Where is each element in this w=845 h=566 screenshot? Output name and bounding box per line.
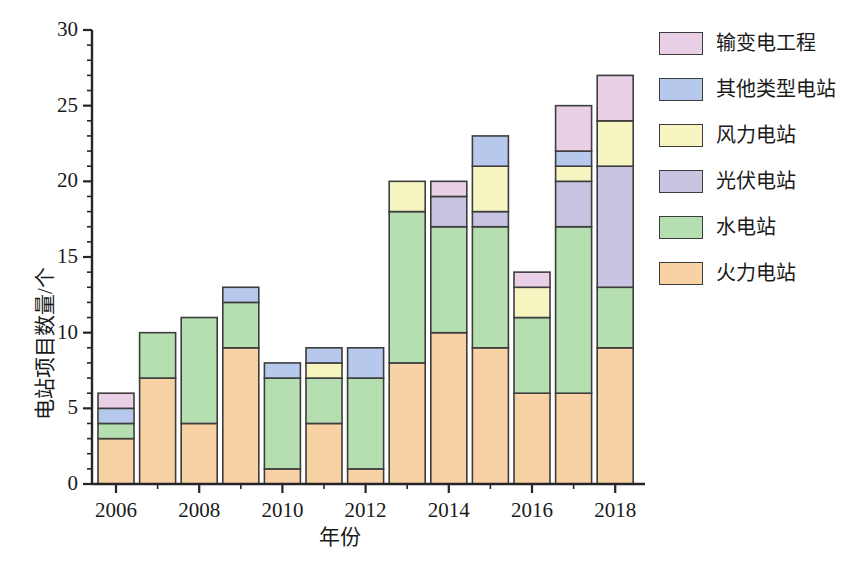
legend-swatch <box>659 32 703 55</box>
y-tick-label: 20 <box>20 168 78 193</box>
bar-segment <box>472 136 508 166</box>
bar-segment <box>181 423 217 484</box>
bar-segment <box>306 378 342 423</box>
bar-segment <box>514 272 550 287</box>
bar-segment <box>98 423 134 438</box>
bar-segment <box>348 378 384 469</box>
bar-segment <box>514 287 550 317</box>
bar-segment <box>264 469 300 484</box>
bar-segment <box>98 393 134 408</box>
bar-segment <box>306 348 342 363</box>
bar-segment <box>389 363 425 484</box>
bar-segment <box>306 363 342 378</box>
y-tick-label: 15 <box>20 244 78 269</box>
legend-label: 风力电站 <box>716 124 796 147</box>
y-tick-label: 30 <box>20 17 78 42</box>
bar-segment <box>431 333 467 484</box>
bar-segment <box>223 348 259 484</box>
legend-swatch <box>659 262 703 285</box>
bar-segment <box>264 363 300 378</box>
bars-group <box>98 75 633 484</box>
bar-segment <box>472 212 508 227</box>
bar-segment <box>431 181 467 196</box>
stacked-bar-chart: 051015202530 200620082010201220142016201… <box>0 0 845 566</box>
bar-segment <box>597 348 633 484</box>
legend-item[interactable]: 其他类型电站 <box>659 76 845 102</box>
bar-segment <box>556 181 592 226</box>
bar-segment <box>556 166 592 181</box>
bar-segment <box>556 227 592 393</box>
legend-item[interactable]: 光伏电站 <box>659 168 845 194</box>
bar-segment <box>389 212 425 363</box>
bar-segment <box>514 393 550 484</box>
y-tick-label: 25 <box>20 93 78 118</box>
legend-swatch <box>659 170 703 193</box>
y-axis-title: 电站项目数量/个 <box>28 267 58 420</box>
bar-segment <box>556 393 592 484</box>
bar-segment <box>223 287 259 302</box>
legend-item[interactable]: 风力电站 <box>659 122 845 148</box>
bar-segment <box>140 378 176 484</box>
legend-label: 水电站 <box>716 216 776 239</box>
legend-label: 光伏电站 <box>716 170 796 193</box>
legend-item[interactable]: 输变电工程 <box>659 30 845 56</box>
bar-segment <box>472 348 508 484</box>
bar-segment <box>597 166 633 287</box>
legend: 输变电工程其他类型电站风力电站光伏电站水电站火力电站 <box>659 30 845 306</box>
bar-segment <box>597 121 633 166</box>
legend-item[interactable]: 水电站 <box>659 214 845 240</box>
bar-segment <box>348 469 384 484</box>
bar-segment <box>181 318 217 424</box>
legend-label: 其他类型电站 <box>716 78 836 101</box>
bar-segment <box>306 423 342 484</box>
legend-label: 火力电站 <box>716 262 796 285</box>
bar-segment <box>514 318 550 394</box>
bar-segment <box>140 333 176 378</box>
legend-swatch <box>659 216 703 239</box>
bar-segment <box>264 378 300 469</box>
bar-segment <box>348 348 384 378</box>
bar-segment <box>597 287 633 348</box>
bar-segment <box>431 227 467 333</box>
bar-segment <box>556 106 592 151</box>
bar-segment <box>223 302 259 347</box>
legend-label: 输变电工程 <box>716 32 816 55</box>
bar-segment <box>98 439 134 484</box>
y-tick-label: 0 <box>20 471 78 496</box>
legend-item[interactable]: 火力电站 <box>659 260 845 286</box>
bar-segment <box>389 181 425 211</box>
x-axis-title: 年份 <box>60 520 620 550</box>
bar-segment <box>556 151 592 166</box>
legend-swatch <box>659 78 703 101</box>
bar-segment <box>472 166 508 211</box>
bar-segment <box>98 408 134 423</box>
legend-swatch <box>659 124 703 147</box>
bar-segment <box>597 75 633 120</box>
bar-segment <box>472 227 508 348</box>
bar-segment <box>431 196 467 226</box>
